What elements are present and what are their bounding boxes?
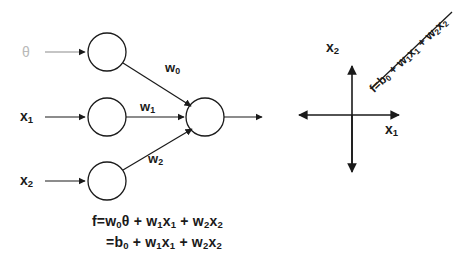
input-label-x1-sub: 1: [28, 114, 33, 125]
input-label-x2: x2: [20, 173, 33, 187]
formula-line-1: f=w0θ + w1x1 + w2x2: [92, 214, 223, 228]
axis-label-x2-main: x: [326, 39, 334, 55]
node-x1: [88, 98, 126, 136]
axis-label-x1: x1: [385, 122, 398, 136]
input-label-bias: θ: [22, 45, 30, 59]
node-x2: [88, 162, 126, 200]
node-bias: [88, 33, 126, 71]
axis-label-x1-main: x: [385, 121, 393, 137]
weight-label-w2-main: w: [148, 151, 158, 166]
axis-label-x2: x2: [326, 40, 339, 54]
weight-label-w1-sub: 1: [150, 105, 155, 115]
weight-label-w2-sub: 2: [158, 157, 163, 167]
axis-label-x2-sub: 2: [334, 45, 339, 56]
weight-label-w0-main: w: [165, 60, 175, 75]
formula-line-2: =b0 + w1x1 + w2x2: [106, 235, 222, 249]
input-label-x1: x1: [20, 109, 33, 123]
input-label-x2-main: x: [20, 172, 28, 188]
weight-label-w1: w1: [140, 100, 155, 113]
weight-label-w2: w2: [148, 152, 163, 165]
node-output: [186, 98, 224, 136]
diagram-canvas: θ x1 x2 w0 w1 w2 f=w0θ + w1x1 + w2x2 =b0…: [0, 0, 465, 265]
input-label-x2-sub: 2: [28, 178, 33, 189]
edge-w0: [123, 63, 191, 106]
axis-label-x1-sub: 1: [393, 127, 398, 138]
weight-label-w1-main: w: [140, 99, 150, 114]
input-label-x1-main: x: [20, 108, 28, 124]
weight-label-w0: w0: [165, 61, 180, 74]
weight-label-w0-sub: 0: [175, 66, 180, 76]
